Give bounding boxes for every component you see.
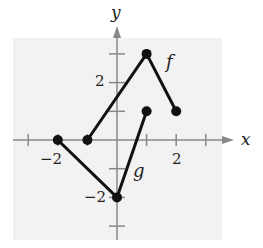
x-tick-label-neg2: −2 bbox=[40, 150, 62, 168]
curve-label-g: g bbox=[133, 160, 145, 181]
point-f bbox=[82, 135, 92, 145]
y-axis-label: y bbox=[110, 2, 121, 22]
y-axis-arrow-icon bbox=[113, 26, 121, 38]
x-axis-label: x bbox=[241, 129, 251, 149]
graph-canvas: y x −2 2 2 −2 f g bbox=[0, 0, 263, 248]
point-f bbox=[171, 106, 181, 116]
point-f bbox=[142, 49, 152, 59]
point-g bbox=[112, 192, 122, 202]
y-tick-label-2: 2 bbox=[95, 72, 105, 90]
point-g bbox=[53, 135, 63, 145]
y-tick-label-neg2: −2 bbox=[84, 188, 106, 206]
x-tick-label-2: 2 bbox=[172, 150, 182, 168]
x-axis-arrow-icon bbox=[222, 136, 234, 144]
point-g bbox=[142, 106, 152, 116]
